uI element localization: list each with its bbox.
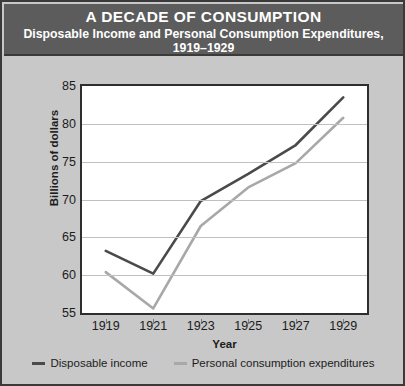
x-axis-tick-label: 1919: [92, 319, 120, 333]
x-axis-tick-label: 1925: [234, 319, 262, 333]
y-axis-tick-label: 75: [42, 155, 76, 169]
chart-subtitle: Disposable Income and Personal Consumpti…: [4, 27, 403, 56]
x-axis-ticks: 191919211923192519271929: [80, 319, 369, 337]
page-title: A DECADE OF CONSUMPTION: [4, 8, 403, 26]
legend-label: Personal consumption expenditures: [192, 357, 375, 369]
legend-swatch: [32, 362, 45, 365]
y-axis-tick-label: 55: [42, 306, 76, 320]
y-axis-tick-label: 65: [42, 230, 76, 244]
y-axis-ticks: 85807570656055: [36, 84, 76, 315]
y-axis-tick-label: 80: [42, 117, 76, 131]
x-axis-tick-label: 1921: [139, 319, 167, 333]
series-line: [106, 118, 344, 309]
gridline: [82, 237, 367, 238]
title-band: A DECADE OF CONSUMPTION Disposable Incom…: [4, 4, 403, 56]
x-axis-tick-label: 1929: [329, 319, 357, 333]
y-axis-tick-label: 85: [42, 79, 76, 93]
plot-inner: [82, 86, 367, 313]
legend-item: Disposable income: [32, 357, 147, 369]
y-axis-tick-label: 60: [42, 268, 76, 282]
x-axis-label: Year: [80, 338, 369, 350]
legend-swatch: [174, 362, 187, 365]
legend-item: Personal consumption expenditures: [174, 357, 375, 369]
chart-legend: Disposable incomePersonal consumption ex…: [4, 354, 403, 372]
chart-figure: A DECADE OF CONSUMPTION Disposable Incom…: [0, 0, 405, 386]
x-axis-tick-label: 1927: [282, 319, 310, 333]
gridline: [82, 124, 367, 125]
gridline: [82, 275, 367, 276]
gridline: [82, 200, 367, 201]
x-axis-tick-label: 1923: [187, 319, 215, 333]
gridline: [82, 162, 367, 163]
legend-label: Disposable income: [50, 357, 147, 369]
y-axis-tick-label: 70: [42, 193, 76, 207]
plot-area: [80, 84, 369, 315]
